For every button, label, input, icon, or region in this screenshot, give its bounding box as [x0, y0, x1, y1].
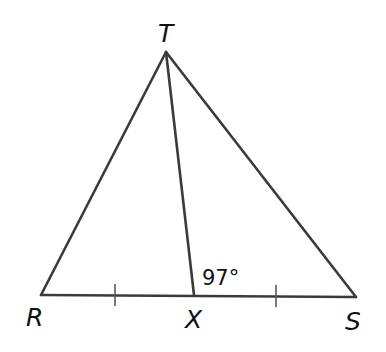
label-t: T — [158, 19, 175, 48]
side-rs — [41, 295, 356, 297]
triangle-diagram: T R X S 97° — [0, 0, 386, 352]
label-r: R — [26, 303, 43, 332]
label-s: S — [345, 307, 361, 336]
side-tr — [41, 52, 166, 295]
label-x: X — [183, 305, 203, 334]
triangle-sides — [41, 52, 356, 297]
segment-tx — [166, 52, 194, 295]
side-ts — [166, 52, 356, 297]
angle-measure-txs: 97° — [202, 266, 239, 290]
